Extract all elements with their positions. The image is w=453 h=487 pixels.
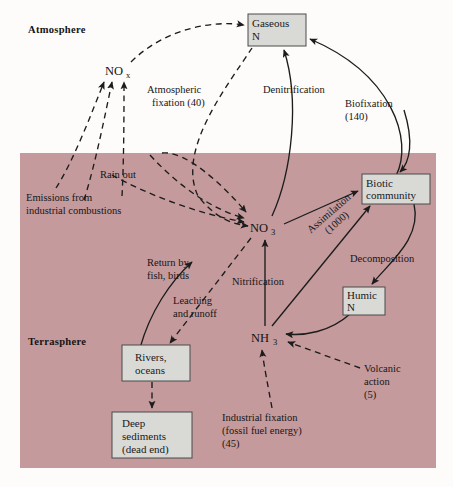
atmospheric-fixation-line2: fixation (40): [152, 97, 205, 109]
leaching-line1: Leaching: [173, 295, 213, 306]
node-gaseous-n[interactable]: Gaseous N: [248, 14, 306, 46]
atmosphere-label: Atmosphere: [28, 24, 86, 35]
no3-sub: 3: [271, 227, 275, 237]
nh3-sub: 3: [273, 337, 277, 347]
gaseous-n-line2: N: [252, 30, 260, 42]
nitrogen-cycle-diagram: Atmosphere Terrasphere: [0, 0, 453, 487]
gaseous-n-line1: Gaseous: [252, 17, 289, 29]
return-fish-line2: fish, birds: [147, 270, 189, 281]
atmospheric-fixation-line1: Atmospheric: [147, 84, 202, 95]
rain-out-label: Rain out: [100, 169, 136, 180]
rivers-line1: Rivers,: [135, 351, 167, 363]
sediments-line1: Deep: [122, 417, 146, 429]
decomposition-label: Decomposition: [350, 253, 415, 264]
industrial-fixation-line3: (45): [222, 438, 240, 450]
industrial-fixation-line1: Industrial fixation: [222, 412, 298, 423]
biofixation-line1: Biofixation: [345, 98, 394, 109]
nox-sub: x: [126, 70, 131, 80]
node-humic-n[interactable]: Humic N: [343, 287, 385, 315]
label-nox: NO x: [105, 64, 131, 80]
no3-base: NO: [250, 221, 268, 235]
node-deep-sediments[interactable]: Deep sediments (dead end): [112, 412, 192, 458]
return-fish-line1: Return by: [147, 257, 189, 268]
nitrification-label: Nitrification: [232, 276, 285, 287]
volcanic-line3: (5): [364, 389, 377, 401]
nox-base: NO: [105, 64, 123, 78]
biotic-line1: Biotic: [366, 177, 393, 189]
volcanic-line1: Volcanic: [364, 363, 401, 374]
emissions-line2: industrial combustions: [26, 205, 121, 216]
humic-line1: Humic: [347, 289, 377, 301]
leaching-line2: and runoff: [173, 308, 217, 319]
denitrification-label: Denitrification: [263, 84, 326, 95]
nh3-base: NH: [251, 331, 269, 345]
sediments-line2: sediments: [122, 430, 166, 442]
humic-line2: N: [347, 301, 355, 313]
node-rivers-oceans[interactable]: Rivers, oceans: [122, 345, 190, 381]
sediments-line3: (dead end): [122, 443, 169, 456]
industrial-fixation-line2: (fossil fuel energy): [222, 425, 302, 437]
arrow-nox-to-gaseous: [131, 24, 244, 62]
biofixation-line2: (140): [345, 111, 368, 123]
volcanic-line2: action: [364, 376, 390, 387]
biotic-line2: community: [366, 189, 417, 201]
nitrogen-cycle-figure: Atmosphere Terrasphere: [0, 0, 453, 487]
node-biotic-community[interactable]: Biotic community: [362, 174, 430, 204]
emissions-line1: Emissions from: [26, 192, 92, 203]
terrasphere-label: Terrasphere: [28, 336, 86, 347]
rivers-line2: oceans: [135, 364, 165, 376]
